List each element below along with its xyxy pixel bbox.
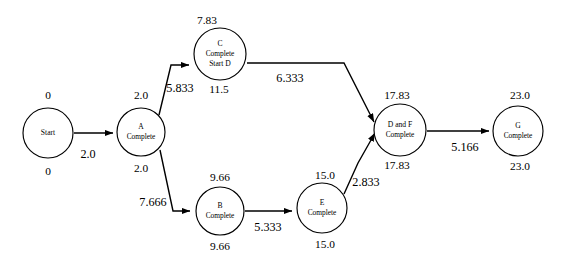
node-a[interactable]: AComplete: [117, 108, 165, 156]
node-c[interactable]: CCompleteStart D: [194, 28, 246, 80]
latest-time-g: 23.0: [510, 160, 530, 172]
edge-duration-label-a-c: 5.833: [166, 81, 193, 95]
earliest-time-start: 0: [45, 89, 51, 101]
network-canvas: StartACompleteCCompleteStart DBCompleteE…: [0, 0, 565, 263]
edge-duration-label-c-df: 6.333: [276, 71, 303, 85]
edge-duration-label-a-b: 7.666: [139, 195, 166, 209]
node-label-b-line-0: B: [217, 201, 222, 210]
node-label-df-line-1: Complete: [386, 130, 415, 139]
node-label-a-line-1: Complete: [127, 132, 156, 141]
node-label-b-line-1: Complete: [206, 211, 235, 220]
node-label-df-line-0: D and F: [388, 120, 412, 129]
node-label-e-line-0: E: [320, 198, 325, 207]
latest-time-df: 17.83: [384, 159, 410, 171]
edge-c-df: [247, 63, 374, 122]
project-network-diagram: StartACompleteCCompleteStart DBCompleteE…: [0, 0, 565, 263]
latest-time-c: 11.5: [209, 83, 229, 95]
node-label-start-line-0: Start: [41, 128, 56, 137]
node-e[interactable]: EComplete: [297, 183, 347, 233]
node-label-e-line-1: Complete: [308, 208, 337, 217]
node-df[interactable]: D and FComplete: [374, 104, 426, 156]
earliest-time-df: 17.83: [384, 89, 410, 101]
edge-duration-label-start-a: 2.0: [80, 147, 95, 161]
node-label-g-line-0: G: [515, 121, 521, 130]
node-label-c-line-0: C: [217, 39, 222, 48]
latest-time-b: 9.66: [210, 240, 230, 252]
latest-time-start: 0: [45, 165, 51, 177]
edge-duration-label-b-e: 5.333: [254, 220, 281, 234]
node-label-c-line-1: Complete: [206, 49, 235, 58]
node-label-g-line-1: Complete: [504, 131, 533, 140]
earliest-time-b: 9.66: [210, 171, 230, 183]
earliest-time-g: 23.0: [510, 89, 530, 101]
node-g[interactable]: GComplete: [493, 106, 543, 156]
node-label-c-line-2: Start D: [209, 59, 231, 68]
earliest-time-e: 15.0: [315, 169, 335, 181]
node-b[interactable]: BComplete: [196, 187, 244, 235]
earliest-time-a: 2.0: [134, 89, 149, 101]
latest-time-e: 15.0: [315, 238, 335, 250]
node-label-a-line-0: A: [138, 122, 144, 131]
node-start[interactable]: Start: [23, 108, 73, 158]
latest-time-a: 2.0: [134, 162, 149, 174]
edge-duration-label-df-g: 5.166: [451, 140, 478, 154]
earliest-time-c: 7.83: [197, 14, 217, 26]
edge-duration-label-e-df: 2.833: [352, 175, 379, 189]
